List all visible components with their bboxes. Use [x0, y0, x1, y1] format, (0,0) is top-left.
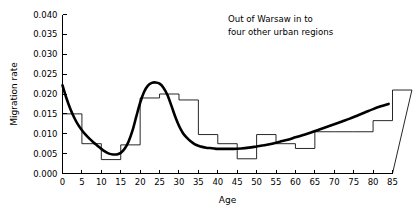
x-tick-label: 25 [154, 177, 165, 187]
x-tick-label: 30 [174, 177, 185, 187]
y-tick-label: 0.005 [33, 149, 57, 159]
x-tick-label: 0 [60, 177, 65, 187]
x-tick-label: 60 [290, 177, 301, 187]
x-tick-label: 10 [96, 177, 107, 187]
y-axis-ticks: 0.0000.0050.0100.0150.0200.0250.0300.035… [33, 10, 66, 179]
x-tick-label: 55 [271, 177, 282, 187]
y-tick-label: 0.040 [33, 10, 57, 20]
x-axis-ticks: 0510152025303540455055606570758085 [60, 170, 398, 187]
annotation-line-1: Out of Warsaw in to [228, 14, 313, 24]
x-axis-title: Age [219, 195, 237, 205]
x-tick-label: 70 [329, 177, 340, 187]
y-tick-label: 0.035 [33, 29, 57, 39]
data-series [63, 82, 412, 173]
observed-histogram-step [63, 90, 412, 173]
y-axis-title: Migration rate [9, 62, 19, 126]
x-tick-label: 5 [79, 177, 84, 187]
x-tick-label: 75 [348, 177, 359, 187]
y-tick-label: 0.015 [33, 109, 57, 119]
x-tick-label: 40 [212, 177, 223, 187]
y-tick-label: 0.010 [33, 129, 57, 139]
migration-rate-chart: 0.0000.0050.0100.0150.0200.0250.0300.035… [0, 0, 415, 218]
axes: 0.0000.0050.0100.0150.0200.0250.0300.035… [33, 10, 398, 187]
y-tick-label: 0.025 [33, 69, 57, 79]
y-tick-label: 0.030 [33, 49, 57, 59]
x-tick-label: 35 [193, 177, 204, 187]
x-tick-label: 50 [251, 177, 262, 187]
x-tick-label: 20 [135, 177, 146, 187]
y-tick-label: 0.000 [33, 169, 57, 179]
x-tick-label: 15 [115, 177, 126, 187]
annotation-line-2: four other urban regions [228, 27, 334, 37]
y-tick-label: 0.020 [33, 89, 57, 99]
x-tick-label: 45 [232, 177, 243, 187]
x-tick-label: 80 [368, 177, 379, 187]
x-tick-label: 85 [387, 177, 398, 187]
x-tick-label: 65 [309, 177, 320, 187]
chart-figure: 0.0000.0050.0100.0150.0200.0250.0300.035… [0, 0, 415, 218]
